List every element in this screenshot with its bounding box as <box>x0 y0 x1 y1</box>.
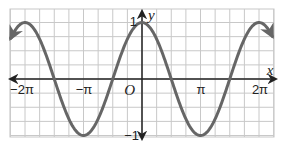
y-tick-label: −1 <box>124 128 139 143</box>
x-tick-label: O <box>124 82 135 98</box>
axes <box>10 11 276 139</box>
cosine-graph: −2π−πOπ2π1−1xy <box>0 0 281 147</box>
curve-left-arrow-icon <box>11 33 14 38</box>
x-axis-label: x <box>266 62 274 78</box>
y-tick-label: 1 <box>130 14 137 29</box>
x-tick-label: −2π <box>10 82 34 97</box>
x-tick-label: −π <box>76 82 93 97</box>
x-tick-label: 2π <box>252 82 268 97</box>
y-axis-label: y <box>146 7 155 23</box>
x-tick-label: π <box>197 82 206 97</box>
